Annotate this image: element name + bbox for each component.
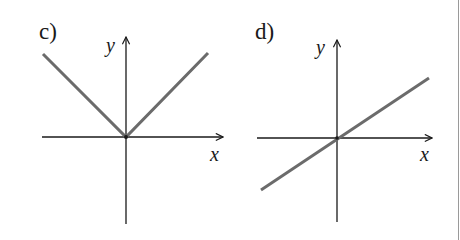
panel-d-axes [257, 40, 432, 222]
graphs-svg [0, 0, 460, 240]
panel-d-origin-dot [335, 136, 339, 140]
graph-figure: c) y x d) y x [0, 0, 460, 240]
panel-c-origin-dot [124, 135, 128, 139]
panel-d-curve [261, 78, 429, 190]
right-border [458, 0, 459, 240]
